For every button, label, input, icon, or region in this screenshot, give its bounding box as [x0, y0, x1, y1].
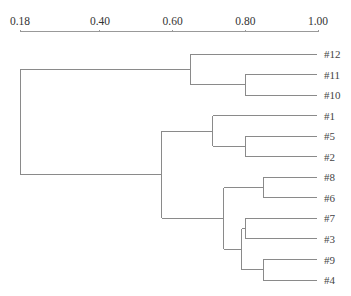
leaf-label: #4 — [324, 274, 336, 286]
dendrogram-tree — [20, 54, 317, 280]
leaf-label: #1 — [324, 110, 335, 122]
leaf-label: #12 — [324, 48, 341, 60]
dendrogram-chart: 0.180.400.600.801.00 #12#11#10#1#5#2#8#6… — [0, 0, 351, 296]
leaf-label: #2 — [324, 151, 335, 163]
axis-tick-label: 1.00 — [308, 15, 328, 27]
leaf-label: #11 — [324, 69, 340, 81]
axis-tick-label: 0.60 — [163, 15, 183, 27]
leaf-label: #5 — [324, 130, 336, 142]
leaf-label: #9 — [324, 254, 336, 266]
leaf-label: #6 — [324, 192, 336, 204]
similarity-axis: 0.180.400.600.801.00 — [10, 15, 328, 32]
axis-tick-label: 0.18 — [10, 15, 30, 27]
leaf-labels: #12#11#10#1#5#2#8#6#7#3#9#4 — [324, 48, 341, 286]
axis-tick-label: 0.40 — [90, 15, 110, 27]
leaf-label: #3 — [324, 233, 336, 245]
leaf-label: #8 — [324, 171, 336, 183]
leaf-label: #7 — [324, 212, 336, 224]
leaf-label: #10 — [324, 89, 341, 101]
axis-tick-label: 0.80 — [235, 15, 255, 27]
